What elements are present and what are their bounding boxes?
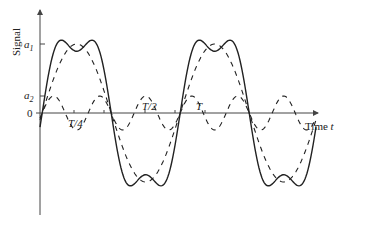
x-axis-label: Time t (305, 120, 335, 132)
a2-label: a2 (24, 89, 34, 104)
y-axis-label: Signal (10, 28, 22, 56)
a1-label: a1 (24, 38, 34, 53)
t-period-label: T (196, 100, 203, 112)
zero-label: 0 (27, 107, 33, 119)
t-half-label: T/2 (142, 100, 157, 112)
t-quarter-label: T/4 (68, 117, 83, 129)
signal-diagram: Signal a1 a2 0 T/4 T/2 T Time t (0, 0, 379, 234)
